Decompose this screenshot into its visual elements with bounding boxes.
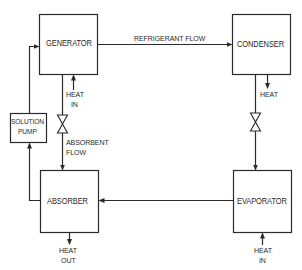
refrigerant-expansion-valve-icon: [251, 113, 261, 131]
evaporator-heat-in-label-line2: IN: [259, 256, 266, 266]
refrigerant-flow-label: REFRIGERANT FLOW: [134, 34, 205, 44]
absorbent-flow-label-line1: ABSORBENT: [66, 138, 109, 148]
evaporator-heat-in-label-line1: HEAT: [254, 246, 272, 256]
evaporator-label: EVAPORATOR: [237, 196, 287, 206]
condenser-label: CONDENSER: [237, 39, 284, 49]
absorbent-expansion-valve-icon: [58, 115, 68, 133]
condenser-heat-label: HEAT: [260, 90, 278, 100]
solution-pump-label-line2: PUMP: [18, 127, 37, 137]
absorber-heat-out-label-line1: HEAT: [59, 246, 77, 256]
solution-pump-label-line1: SOLUTION: [11, 117, 44, 127]
absorbent-flow-label-line2: FLOW: [66, 148, 86, 158]
absorber-heat-out-label-line2: OUT: [61, 256, 76, 266]
pump-to-generator-line: [30, 47, 39, 114]
absorber-label: ABSORBER: [47, 196, 88, 206]
absorber-to-pump-line: [30, 144, 41, 201]
generator-label: GENERATOR: [46, 38, 92, 48]
absorption-cycle-diagram: GENERATOR CONDENSER ABSORBER EVAPORATOR …: [0, 0, 302, 270]
generator-heat-in-label-line1: HEAT: [66, 90, 84, 100]
generator-heat-in-label-line2: IN: [71, 100, 78, 110]
